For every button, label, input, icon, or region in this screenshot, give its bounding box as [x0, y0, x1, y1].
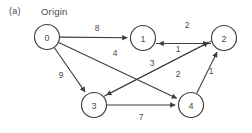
node-3[interactable]: 3 — [82, 93, 107, 118]
edge-weight-2-1: 2 — [185, 20, 190, 30]
edge-weight-2-3: 3 — [150, 58, 155, 68]
edge-weight-4-2: 1 — [209, 66, 214, 76]
edge-4-to-2 — [197, 52, 217, 93]
node-label-3: 3 — [91, 101, 96, 111]
node-layer: 01234 — [35, 25, 237, 118]
node-label-2: 2 — [221, 34, 226, 44]
edge-0-to-1 — [60, 37, 127, 38]
node-2[interactable]: 2 — [212, 26, 237, 51]
node-label-1: 1 — [140, 34, 145, 44]
edge-weight-0-4: 4 — [113, 48, 118, 58]
directed-weighted-graph: 01234 894123271 — [0, 0, 252, 133]
edge-weight-0-1: 8 — [95, 23, 100, 33]
node-0[interactable]: 0 — [35, 25, 60, 50]
edge-weight-1-2: 1 — [176, 44, 181, 54]
edge-weight-3-4: 7 — [139, 112, 144, 122]
edge-0-to-4 — [59, 43, 177, 99]
node-1[interactable]: 1 — [131, 26, 156, 51]
edge-weight-3-2: 2 — [176, 69, 181, 79]
edge-weight-0-3: 9 — [59, 70, 64, 80]
node-label-0: 0 — [44, 33, 49, 43]
node-label-4: 4 — [188, 101, 193, 111]
node-4[interactable]: 4 — [179, 93, 204, 118]
figure-panel-a: (a) Origin 01234 894123271 — [0, 0, 252, 133]
